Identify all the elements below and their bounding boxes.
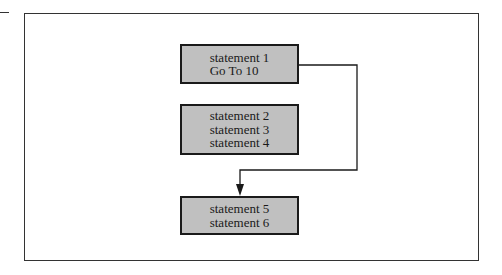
arrowhead-down-icon xyxy=(236,184,244,196)
jump-connector-line xyxy=(240,65,357,186)
jump-connector xyxy=(0,0,502,275)
